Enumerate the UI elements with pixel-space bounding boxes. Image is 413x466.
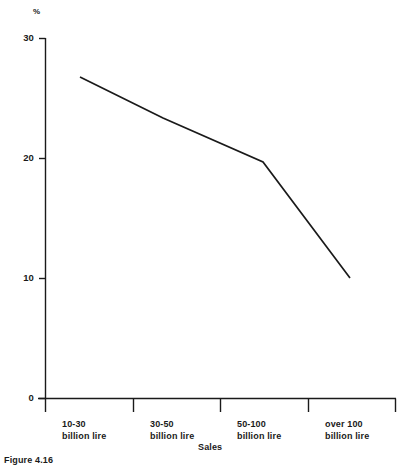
x-category-label-3: over 100 billion lire — [325, 418, 369, 442]
y-tick-label-20: 20 — [6, 153, 34, 163]
figure-container: % 30 20 10 0 10-30 billion lire 30-50 bi… — [0, 0, 413, 466]
y-tick-label-10: 10 — [6, 273, 34, 283]
figure-caption: Figure 4.16 — [4, 456, 53, 465]
x-category-label-2: 50-100 billion lire — [237, 418, 281, 442]
y-tick-label-0: 0 — [6, 393, 34, 403]
chart-canvas — [0, 0, 413, 466]
x-category-label-0: 10-30 billion lire — [62, 418, 106, 442]
y-axis-unit-label: % — [33, 8, 40, 16]
data-line-series — [80, 77, 350, 278]
x-axis-title: Sales — [198, 443, 222, 452]
y-tick-label-30: 30 — [6, 33, 34, 43]
x-category-label-1: 30-50 billion lire — [150, 418, 194, 442]
